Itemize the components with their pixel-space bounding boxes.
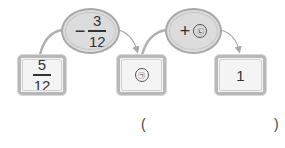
answer-field[interactable] [152, 116, 270, 134]
operation-add: + ㉡ [165, 8, 222, 54]
numerator: 5 [38, 57, 46, 72]
arrow-op1-to-middle [119, 30, 137, 50]
denominator: 12 [89, 34, 106, 49]
minus-operator: − [75, 21, 86, 42]
end-box: 1 [215, 55, 266, 95]
middle-box: ㉠ [117, 55, 166, 95]
plus-operator: + [180, 21, 191, 42]
fraction-bar [88, 30, 106, 32]
arrow-op2-to-end [221, 30, 239, 50]
arc-middle-to-op2 [142, 30, 166, 55]
denominator: 12 [34, 78, 51, 93]
numerator: 3 [93, 13, 101, 28]
unknown-a-label: ㉠ [135, 68, 149, 82]
unknown-b-label: ㉡ [193, 24, 207, 38]
operation-subtract: − 3 12 [61, 8, 120, 54]
arc-start-to-op1 [40, 30, 62, 55]
fraction-bar [33, 74, 51, 76]
answer-close-paren: ) [274, 116, 279, 132]
fraction-subtrahend: 3 12 [88, 13, 106, 49]
fraction-start: 5 12 [33, 57, 51, 93]
start-box: 5 12 [18, 55, 66, 95]
answer-open-paren: ( [141, 116, 146, 132]
end-value: 1 [236, 67, 244, 84]
